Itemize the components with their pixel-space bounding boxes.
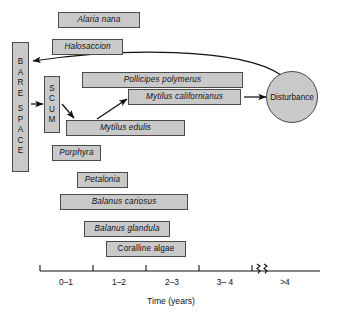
node-bare-space[interactable]: B A R E S P A C E xyxy=(12,42,29,172)
disturbance-label: Disturbance xyxy=(270,93,314,102)
species-box-balanus-glandula[interactable]: Balanus glandula xyxy=(84,221,170,237)
species-label: Mytilus edulis xyxy=(100,124,151,132)
bare-space-letter: P xyxy=(18,115,23,126)
node-disturbance[interactable]: Disturbance xyxy=(266,71,318,123)
scum-letter: M xyxy=(49,115,56,126)
species-box-balanus-cariosus[interactable]: Balanus cariosus xyxy=(60,194,188,210)
axis-tick-label-3-4: 3– 4 xyxy=(217,277,233,287)
species-box-petalonia[interactable]: Petalonia xyxy=(77,172,128,188)
tick-text: 2–3 xyxy=(165,277,179,287)
species-box-porphyra[interactable]: Porphyra xyxy=(52,145,101,161)
scum-letter: U xyxy=(49,105,55,116)
bare-space-letter: C xyxy=(18,136,24,147)
axis-break-icon xyxy=(257,264,267,273)
bare-space-letter: A xyxy=(18,125,23,136)
species-label: Pollicipes polymerus xyxy=(124,76,202,84)
node-scum[interactable]: S C U M xyxy=(44,76,60,133)
species-label: Balanus cariosus xyxy=(92,198,157,206)
species-box-coralline-algae[interactable]: Coralline algae xyxy=(106,241,186,257)
axis-tick-label-gt-4: >4 xyxy=(280,277,290,287)
arrow-mytilus-edulis-to-californianus xyxy=(97,99,127,119)
successional-diagram: B A R E S P A C E S C U M Disturbance Al… xyxy=(0,0,342,313)
species-box-pollicipes-polymerus[interactable]: Pollicipes polymerus xyxy=(82,72,243,88)
bare-space-letter: E xyxy=(18,89,23,100)
bare-space-letter: B xyxy=(18,57,23,68)
axis-title-text: Time (years) xyxy=(147,296,195,306)
tick-text: 0–1 xyxy=(59,277,73,287)
arrow-scum-to-mytilus-edulis xyxy=(62,104,74,118)
bare-space-letter: E xyxy=(18,146,23,157)
species-box-mytilus-edulis[interactable]: Mytilus edulis xyxy=(66,120,185,136)
axis-title: Time (years) xyxy=(147,296,195,306)
species-box-halosaccion[interactable]: Halosaccion xyxy=(52,39,123,55)
scum-letter: C xyxy=(49,94,55,105)
species-label: Halosaccion xyxy=(64,43,110,51)
species-label: Alaria nana xyxy=(77,16,120,24)
axis-tick-label-0-1: 0–1 xyxy=(59,277,73,287)
axis-tick-label-1-2: 1–2 xyxy=(112,277,126,287)
species-label: Mytilus californianus xyxy=(146,93,223,101)
species-label: Porphyra xyxy=(59,149,93,157)
species-box-alaria-nana[interactable]: Alaria nana xyxy=(58,12,140,28)
axis-tick-label-2-3: 2–3 xyxy=(165,277,179,287)
tick-text: 3– 4 xyxy=(217,277,233,287)
bare-space-letter: S xyxy=(18,104,23,115)
species-label: Petalonia xyxy=(85,176,121,184)
bare-space-letter: R xyxy=(18,78,24,89)
bare-space-letter: A xyxy=(18,68,23,79)
scum-letter: S xyxy=(49,84,54,95)
tick-text: >4 xyxy=(280,277,290,287)
tick-text: 1–2 xyxy=(112,277,126,287)
species-label: Balanus glandula xyxy=(94,225,159,233)
species-box-mytilus-californianus[interactable]: Mytilus californianus xyxy=(128,89,241,105)
species-label: Coralline algae xyxy=(118,245,175,253)
